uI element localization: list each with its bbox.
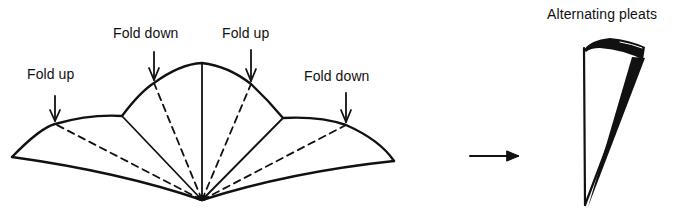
fan-bottom-right-edge bbox=[202, 161, 394, 200]
alternating-pleats-cone bbox=[584, 38, 645, 207]
arrow-right-icon bbox=[470, 151, 519, 161]
label-fold-down-right: Fold down bbox=[304, 68, 370, 84]
arrow-down-icon bbox=[50, 96, 60, 121]
label-fold-up-center: Fold up bbox=[222, 25, 269, 41]
arrow-down-icon bbox=[149, 52, 159, 80]
arrow-down-icon bbox=[246, 50, 256, 81]
arrow-down-icon bbox=[341, 93, 351, 122]
label-fold-up-left: Fold up bbox=[27, 66, 74, 82]
dashed-fold-up-center bbox=[202, 84, 251, 200]
label-alternating-pleats: Alternating pleats bbox=[547, 6, 657, 22]
fan-apex bbox=[196, 195, 208, 201]
dashed-fold-up-left bbox=[55, 124, 202, 200]
dashed-fold-down-center bbox=[154, 83, 202, 200]
fan-bottom-left-edge bbox=[12, 157, 202, 200]
dashed-fold-down-right bbox=[202, 125, 346, 200]
label-fold-down-center: Fold down bbox=[113, 25, 179, 41]
pleat-folding-diagram bbox=[0, 0, 697, 218]
